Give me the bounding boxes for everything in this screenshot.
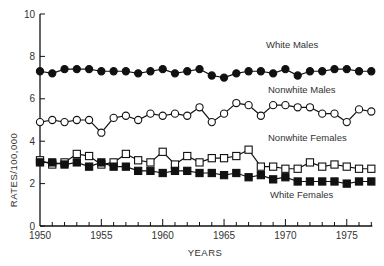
series-nonwhite-males	[36, 99, 375, 136]
x-tick-label: 1950	[29, 230, 52, 241]
data-point-marker	[368, 178, 375, 185]
data-point-marker	[147, 167, 154, 174]
data-point-marker	[135, 116, 142, 123]
data-point-marker	[98, 159, 105, 166]
data-point-marker	[208, 155, 215, 162]
x-tick-label: 1970	[274, 230, 297, 241]
data-point-marker	[135, 70, 142, 77]
data-point-marker	[171, 70, 178, 77]
data-point-marker	[61, 161, 68, 168]
label-white-males: White Males	[266, 39, 319, 50]
data-point-marker	[368, 165, 375, 172]
data-point-marker	[233, 70, 240, 77]
data-point-marker	[257, 68, 264, 75]
data-point-marker	[220, 172, 227, 179]
data-point-marker	[85, 152, 92, 159]
data-point-marker	[122, 112, 129, 119]
data-point-marker	[220, 74, 227, 81]
data-point-marker	[245, 68, 252, 75]
data-point-marker	[159, 66, 166, 73]
data-point-marker	[220, 110, 227, 117]
data-point-marker	[331, 110, 338, 117]
data-point-marker	[343, 66, 350, 73]
series-labels: White MalesNonwhite MalesNonwhite Female…	[266, 39, 347, 200]
data-point-marker	[73, 159, 80, 166]
data-point-marker	[85, 163, 92, 170]
data-point-marker	[196, 66, 203, 73]
x-tick-label: 1955	[90, 230, 113, 241]
x-tick-label: 1960	[152, 230, 175, 241]
data-point-marker	[147, 159, 154, 166]
x-axis-title: YEARS	[188, 247, 223, 258]
data-point-marker	[159, 112, 166, 119]
y-tick-label: 4	[29, 136, 35, 147]
data-point-marker	[73, 116, 80, 123]
data-point-marker	[270, 70, 277, 77]
data-point-marker	[294, 72, 301, 79]
data-point-marker	[184, 167, 191, 174]
data-point-marker	[184, 112, 191, 119]
data-point-marker	[159, 148, 166, 155]
data-point-marker	[245, 102, 252, 109]
data-point-marker	[306, 178, 313, 185]
data-point-marker	[73, 66, 80, 73]
data-point-marker	[355, 178, 362, 185]
data-point-marker	[36, 159, 43, 166]
data-point-marker	[294, 178, 301, 185]
data-point-marker	[159, 169, 166, 176]
data-point-marker	[306, 104, 313, 111]
data-point-marker	[61, 66, 68, 73]
data-point-marker	[245, 174, 252, 181]
data-point-marker	[257, 163, 264, 170]
data-point-marker	[147, 68, 154, 75]
data-point-marker	[73, 150, 80, 157]
data-point-marker	[331, 178, 338, 185]
data-point-marker	[135, 157, 142, 164]
data-point-marker	[171, 110, 178, 117]
data-point-marker	[233, 152, 240, 159]
label-nonwhite-females: Nonwhite Females	[268, 132, 347, 143]
data-point-marker	[49, 70, 56, 77]
data-point-marker	[122, 163, 129, 170]
data-point-marker	[245, 146, 252, 153]
data-point-marker	[294, 104, 301, 111]
axes: 0246810195019551960196519701975	[24, 9, 372, 242]
y-tick-label: 6	[29, 93, 35, 104]
data-point-marker	[319, 163, 326, 170]
data-point-marker	[122, 150, 129, 157]
data-point-marker	[282, 165, 289, 172]
data-point-marker	[257, 112, 264, 119]
data-point-marker	[85, 116, 92, 123]
data-point-marker	[184, 152, 191, 159]
data-point-marker	[233, 99, 240, 106]
data-point-marker	[343, 180, 350, 187]
label-white-females: White Females	[270, 189, 334, 200]
data-point-marker	[319, 110, 326, 117]
data-point-marker	[355, 165, 362, 172]
data-point-marker	[196, 169, 203, 176]
data-point-marker	[196, 159, 203, 166]
data-point-marker	[85, 66, 92, 73]
data-point-marker	[355, 106, 362, 113]
data-point-marker	[306, 159, 313, 166]
label-nonwhite-males: Nonwhite Males	[268, 84, 336, 95]
data-point-marker	[98, 68, 105, 75]
data-point-marker	[233, 169, 240, 176]
data-point-marker	[343, 119, 350, 126]
data-point-marker	[368, 68, 375, 75]
data-point-marker	[61, 119, 68, 126]
data-point-marker	[110, 68, 117, 75]
data-point-marker	[282, 102, 289, 109]
data-point-marker	[331, 161, 338, 168]
y-axis-title: RATES/100,000	[8, 133, 19, 207]
data-point-marker	[122, 68, 129, 75]
data-point-marker	[368, 108, 375, 115]
data-point-marker	[355, 68, 362, 75]
data-point-marker	[319, 178, 326, 185]
data-point-marker	[319, 68, 326, 75]
data-point-marker	[270, 176, 277, 183]
data-point-marker	[306, 68, 313, 75]
data-point-marker	[208, 119, 215, 126]
y-tick-label: 10	[24, 9, 36, 20]
data-point-marker	[257, 172, 264, 179]
